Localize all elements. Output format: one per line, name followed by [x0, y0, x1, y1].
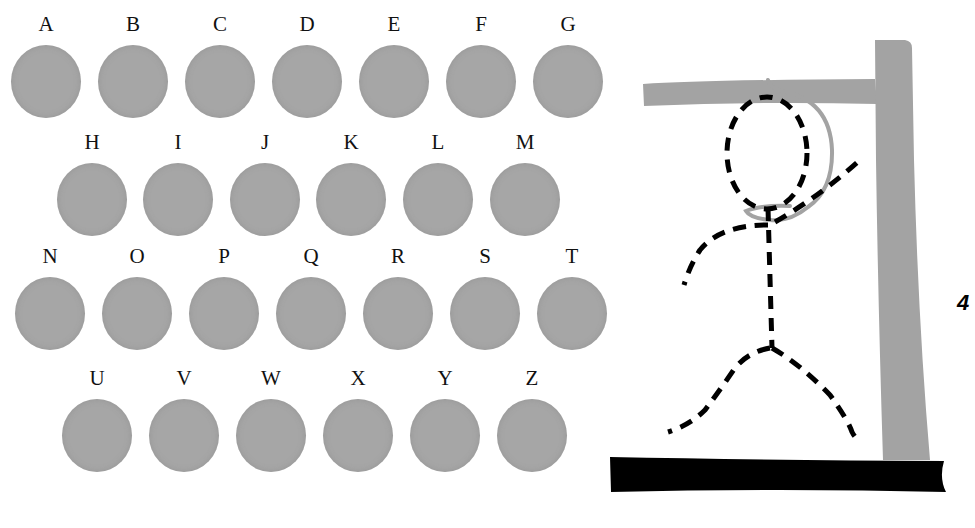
letter-circle[interactable] [189, 277, 259, 350]
letter-label: J [229, 130, 301, 154]
letter-circle[interactable] [276, 277, 346, 350]
letter-button-o[interactable]: O [101, 244, 173, 344]
letter-button-v[interactable]: V [148, 366, 220, 466]
letter-label: Z [496, 366, 568, 390]
letter-label: T [536, 244, 608, 268]
letter-circle[interactable] [410, 399, 480, 472]
gallows-beam [643, 79, 877, 106]
ground-bar [610, 457, 946, 492]
letter-circle[interactable] [230, 163, 300, 236]
letter-circle[interactable] [323, 399, 393, 472]
letter-circle[interactable] [316, 163, 386, 236]
letter-button-p[interactable]: P [188, 244, 260, 344]
letter-circle[interactable] [450, 277, 520, 350]
letter-button-r[interactable]: R [362, 244, 434, 344]
letter-label: P [188, 244, 260, 268]
letter-label: N [14, 244, 86, 268]
letter-button-y[interactable]: Y [409, 366, 481, 466]
letter-circle[interactable] [15, 277, 85, 350]
letter-circle[interactable] [57, 163, 127, 236]
letter-button-h[interactable]: H [56, 130, 128, 230]
letter-button-a[interactable]: A [10, 12, 82, 112]
letter-circle[interactable] [272, 45, 342, 118]
letter-circle[interactable] [446, 45, 516, 118]
letter-label: B [97, 12, 169, 36]
letter-label: M [489, 130, 561, 154]
letter-label: A [10, 12, 82, 36]
letter-circle[interactable] [236, 399, 306, 472]
figure-left-leg [668, 348, 770, 432]
letter-circle[interactable] [11, 45, 81, 118]
letter-circle[interactable] [490, 163, 560, 236]
letter-label: S [449, 244, 521, 268]
letter-button-d[interactable]: D [271, 12, 343, 112]
gallows-post [875, 40, 930, 460]
letter-button-k[interactable]: K [315, 130, 387, 230]
letter-circle[interactable] [359, 45, 429, 118]
letter-button-q[interactable]: Q [275, 244, 347, 344]
letter-label: I [142, 130, 214, 154]
letter-label: V [148, 366, 220, 390]
figure-right-arm [775, 160, 860, 222]
letter-button-e[interactable]: E [358, 12, 430, 112]
wrong-guess-count: 4 [957, 291, 969, 315]
letter-button-t[interactable]: T [536, 244, 608, 344]
letter-circle[interactable] [497, 399, 567, 472]
letter-button-j[interactable]: J [229, 130, 301, 230]
letter-button-z[interactable]: Z [496, 366, 568, 466]
letter-circle[interactable] [102, 277, 172, 350]
figure-left-arm [684, 225, 768, 285]
letter-button-w[interactable]: W [235, 366, 307, 466]
letter-board: A B C D E F G H I J K L [0, 0, 610, 528]
letter-circle[interactable] [62, 399, 132, 472]
letter-button-x[interactable]: X [322, 366, 394, 466]
letter-label: R [362, 244, 434, 268]
letter-button-l[interactable]: L [402, 130, 474, 230]
letter-label: K [315, 130, 387, 154]
figure-head [727, 97, 807, 209]
letter-circle[interactable] [185, 45, 255, 118]
letter-circle[interactable] [149, 399, 219, 472]
letter-circle[interactable] [537, 277, 607, 350]
letter-button-g[interactable]: G [532, 12, 604, 112]
letter-button-b[interactable]: B [97, 12, 169, 112]
letter-button-m[interactable]: M [489, 130, 561, 230]
letter-label: Q [275, 244, 347, 268]
letter-button-n[interactable]: N [14, 244, 86, 344]
letter-circle[interactable] [533, 45, 603, 118]
letter-label: G [532, 12, 604, 36]
figure-right-leg [772, 348, 859, 440]
letter-circle[interactable] [363, 277, 433, 350]
letter-label: O [101, 244, 173, 268]
letter-label: L [402, 130, 474, 154]
letter-label: W [235, 366, 307, 390]
figure-body [768, 208, 772, 348]
letter-label: X [322, 366, 394, 390]
letter-circle[interactable] [98, 45, 168, 118]
letter-label: F [445, 12, 517, 36]
letter-label: E [358, 12, 430, 36]
letter-label: C [184, 12, 256, 36]
letter-button-f[interactable]: F [445, 12, 517, 112]
letter-label: Y [409, 366, 481, 390]
letter-label: H [56, 130, 128, 154]
letter-label: U [61, 366, 133, 390]
letter-button-i[interactable]: I [142, 130, 214, 230]
letter-circle[interactable] [143, 163, 213, 236]
hangman-drawing [600, 0, 975, 528]
gallows-svg [600, 0, 975, 528]
letter-button-s[interactable]: S [449, 244, 521, 344]
letter-label: D [271, 12, 343, 36]
letter-button-c[interactable]: C [184, 12, 256, 112]
letter-button-u[interactable]: U [61, 366, 133, 466]
letter-circle[interactable] [403, 163, 473, 236]
